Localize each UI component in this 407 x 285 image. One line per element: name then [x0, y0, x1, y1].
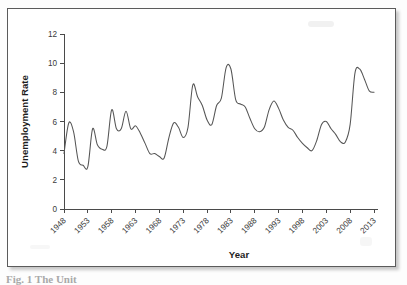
figure-caption-text: Fig. 1 The Unit [6, 274, 146, 285]
y-axis-title: Unemployment Rate [19, 75, 30, 168]
unemployment-line-chart: 0246810121948195319581963196819731978198… [8, 9, 394, 265]
y-axis-tick-label: 10 [48, 59, 58, 68]
x-axis-tick-label: 1968 [144, 216, 164, 236]
x-axis-tick-label: 1988 [239, 216, 259, 236]
x-axis-tick-label: 1983 [216, 216, 236, 236]
y-axis-tick-label: 6 [52, 118, 57, 127]
y-axis-tick-label: 8 [52, 88, 57, 97]
x-axis-tick-label: 2003 [311, 216, 331, 236]
x-axis-tick-label: 1973 [168, 216, 188, 236]
x-axis-tick-label: 1948 [49, 216, 69, 236]
page-background: 0246810121948195319581963196819731978198… [0, 0, 407, 285]
x-axis-tick-label: 1958 [96, 216, 116, 236]
x-axis-tick-label: 1978 [192, 216, 212, 236]
x-axis-title: Year [229, 249, 250, 260]
y-axis-tick-label: 0 [52, 205, 57, 214]
x-axis-tick-label: 2013 [359, 216, 379, 236]
x-axis-tick-label: 2008 [335, 216, 355, 236]
y-axis-tick-label: 12 [48, 30, 58, 39]
figure-caption-clipped: Fig. 1 The Unit [6, 274, 146, 285]
y-axis-tick-label: 4 [52, 147, 57, 156]
x-axis-tick-label: 1953 [73, 216, 93, 236]
unemployment-rate-series-line [64, 64, 374, 169]
chart-plot-area: 0246810121948195319581963196819731978198… [8, 9, 395, 266]
x-axis-tick-label: 1998 [287, 216, 307, 236]
x-axis-tick-label: 1963 [120, 216, 140, 236]
y-axis-tick-label: 2 [52, 176, 57, 185]
figure-frame: 0246810121948195319581963196819731978198… [7, 8, 396, 267]
x-axis-tick-label: 1993 [263, 216, 283, 236]
